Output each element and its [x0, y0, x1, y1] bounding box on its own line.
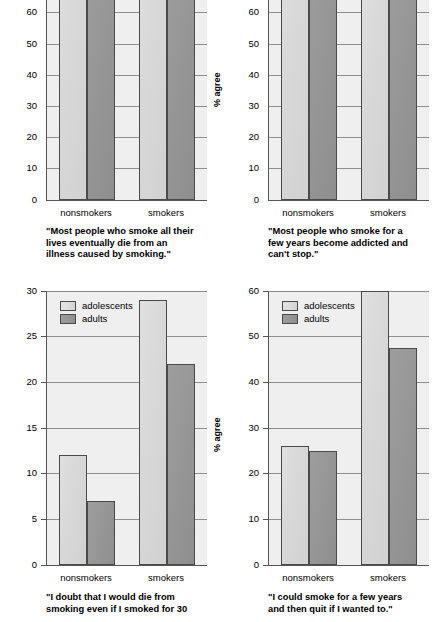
caption-line: illness caused by smoking."	[46, 249, 208, 261]
caption-line: and then quit if I wanted to."	[268, 604, 432, 616]
bar-smokers-adolescents	[139, 300, 167, 565]
y-tick-label: 30	[226, 100, 259, 111]
y-axis-tick	[263, 382, 269, 383]
y-axis-tick	[41, 336, 47, 337]
bar-smokers-adults	[167, 364, 195, 565]
legend-swatch-adults	[282, 314, 298, 324]
y-tick-label: 20	[4, 131, 37, 142]
y-tick-label: 60	[226, 285, 259, 296]
plot-area-bottom-right	[268, 291, 429, 566]
bar-nonsmokers-adolescents	[281, 0, 309, 200]
caption-line: "I doubt that I would die from	[46, 592, 208, 604]
y-tick-label: 15	[4, 422, 37, 433]
x-tick-label-nonsmokers: nonsmokers	[46, 207, 126, 218]
y-tick-label: 60	[4, 6, 37, 17]
y-tick-label: 20	[226, 467, 259, 478]
y-axis-tick	[263, 473, 269, 474]
y-axis-tick	[41, 519, 47, 520]
legend-bottom-left: adolescentsadults	[56, 297, 138, 327]
plot-area-top-right	[268, 0, 429, 201]
y-tick-label: 25	[4, 330, 37, 341]
bar-smokers-adolescents	[361, 291, 389, 565]
y-axis-tick	[41, 291, 47, 292]
caption-line: smoking even if I smoked for 30	[46, 604, 208, 616]
y-tick-label: 20	[4, 376, 37, 387]
bar-smokers-adults	[389, 348, 417, 565]
legend-swatch-adults	[60, 314, 76, 324]
caption-top-left: "Most people who smoke all theirlives ev…	[46, 226, 208, 261]
y-axis-tick	[41, 428, 47, 429]
y-axis-tick	[41, 382, 47, 383]
y-axis-tick	[263, 291, 269, 292]
y-axis-tick	[46, 75, 47, 76]
y-axis-tick	[263, 519, 269, 520]
y-tick-label: 0	[226, 194, 259, 205]
y-axis-label-top-right: % agree	[212, 72, 222, 107]
caption-line: "Most people who smoke for a	[268, 226, 432, 238]
y-tick-label: 20	[226, 131, 259, 142]
y-axis-tick	[263, 428, 269, 429]
y-tick-label: 10	[4, 467, 37, 478]
y-tick-label: 40	[226, 376, 259, 387]
caption-top-right: "Most people who smoke for afew years be…	[268, 226, 432, 261]
y-tick-label: 50	[4, 38, 37, 49]
caption-bottom-left: "I doubt that I would die fromsmoking ev…	[46, 592, 208, 615]
x-tick-label-smokers: smokers	[126, 207, 206, 218]
y-tick-label: 40	[4, 69, 37, 80]
legend-label-adults: adults	[304, 313, 329, 324]
y-tick-label: 30	[4, 285, 37, 296]
gridline	[47, 291, 207, 292]
caption-line: few years become addicted and	[268, 238, 432, 250]
gridline	[269, 336, 429, 337]
y-tick-label: 30	[226, 422, 259, 433]
bar-nonsmokers-adults	[309, 451, 337, 565]
y-axis-tick	[46, 200, 47, 201]
legend-label-adolescents: adolescents	[82, 300, 133, 311]
legend-item-adolescents[interactable]: adolescents	[60, 300, 133, 311]
y-tick-label: 10	[226, 162, 259, 173]
bar-nonsmokers-adolescents	[281, 446, 309, 565]
plot-area-top-left	[46, 0, 207, 201]
y-axis-label-bottom-right: % agree	[212, 417, 222, 452]
caption-line: "Most people who smoke all their	[46, 226, 208, 238]
y-tick-label: 30	[4, 100, 37, 111]
x-tick-label-smokers: smokers	[348, 572, 428, 583]
bar-smokers-adolescents	[139, 0, 167, 200]
y-tick-label: 5	[4, 513, 37, 524]
caption-line: "I could smoke for a few years	[268, 592, 432, 604]
bar-nonsmokers-adults	[87, 0, 115, 200]
y-axis-tick	[41, 565, 47, 566]
legend-swatch-adolescents	[60, 301, 76, 311]
bar-nonsmokers-adults	[87, 501, 115, 565]
legend-label-adults: adults	[82, 313, 107, 324]
bar-nonsmokers-adolescents	[59, 455, 87, 565]
y-tick-label: 10	[226, 513, 259, 524]
y-axis-tick	[268, 12, 269, 13]
y-axis-tick	[268, 106, 269, 107]
y-axis-tick	[46, 106, 47, 107]
legend-label-adolescents: adolescents	[304, 300, 355, 311]
y-axis-tick	[46, 12, 47, 13]
y-axis-tick	[263, 336, 269, 337]
plot-area-bottom-left	[46, 291, 207, 566]
y-axis-tick	[46, 137, 47, 138]
y-axis-tick	[46, 44, 47, 45]
legend-swatch-adolescents	[282, 301, 298, 311]
bar-smokers-adolescents	[361, 0, 389, 200]
x-tick-label-smokers: smokers	[348, 207, 428, 218]
y-tick-label: 50	[226, 330, 259, 341]
caption-line: can't stop."	[268, 249, 432, 261]
legend-bottom-right: adolescentsadults	[278, 297, 360, 327]
y-axis-tick	[268, 137, 269, 138]
bar-smokers-adults	[389, 0, 417, 200]
bar-smokers-adults	[167, 0, 195, 200]
legend-item-adolescents[interactable]: adolescents	[282, 300, 355, 311]
legend-item-adults[interactable]: adults	[60, 313, 133, 324]
legend-item-adults[interactable]: adults	[282, 313, 355, 324]
x-tick-label-nonsmokers: nonsmokers	[46, 572, 126, 583]
x-tick-label-smokers: smokers	[126, 572, 206, 583]
y-axis-tick	[46, 168, 47, 169]
gridline	[47, 336, 207, 337]
caption-bottom-right: "I could smoke for a few yearsand then q…	[268, 592, 432, 615]
y-tick-label: 0	[226, 559, 259, 570]
